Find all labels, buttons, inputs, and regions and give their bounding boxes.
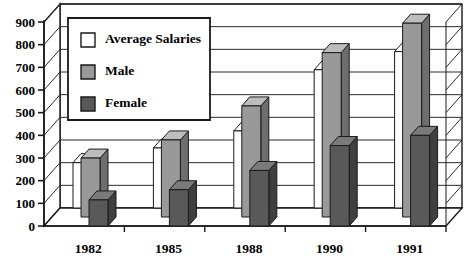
legend-label-female: Female [105, 95, 147, 110]
y-tick-label: 800 [16, 37, 36, 52]
bar-1988-Female [250, 170, 269, 226]
legend-swatch-average-salaries [81, 33, 95, 47]
y-tick-label: 0 [29, 219, 36, 234]
left-wall [44, 4, 60, 226]
bar-1982-Female [89, 200, 108, 226]
bar-1991-Female [411, 135, 430, 226]
legend-label-average-salaries: Average Salaries [105, 31, 201, 46]
bar-side-1991-Female [430, 126, 438, 226]
salaries-bar-chart: 0100200300400500600700800900198219851988… [0, 0, 471, 266]
chart-canvas: 0100200300400500600700800900198219851988… [0, 0, 471, 266]
x-tick-label-1990: 1990 [316, 241, 343, 256]
y-tick-label: 600 [16, 83, 36, 98]
y-tick-label: 400 [16, 128, 36, 143]
legend-swatch-male [81, 65, 95, 79]
bar-side-1988-Female [269, 161, 277, 226]
y-tick-label: 100 [16, 196, 36, 211]
x-tick-label-1988: 1988 [236, 241, 263, 256]
y-tick-label: 500 [16, 105, 36, 120]
y-tick-label: 900 [16, 15, 36, 30]
legend-label-male: Male [105, 63, 134, 78]
x-tick-label-1985: 1985 [155, 241, 182, 256]
bar-side-1990-Female [349, 137, 357, 226]
bar-1985-Female [169, 190, 188, 226]
y-tick-label: 300 [16, 151, 36, 166]
x-tick-label-1982: 1982 [75, 241, 102, 256]
y-tick-label: 700 [16, 60, 36, 75]
bar-1990-Female [330, 146, 349, 226]
x-tick-label-1991: 1991 [396, 241, 423, 256]
legend-swatch-female [81, 97, 95, 111]
y-tick-label: 200 [16, 173, 36, 188]
